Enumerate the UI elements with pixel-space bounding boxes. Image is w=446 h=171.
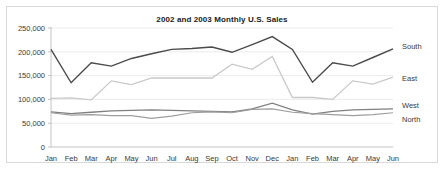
x-axis-tick-label: Jul [167,154,177,163]
x-axis-tick-label: Jun [146,154,158,163]
y-axis-line [51,27,393,147]
x-axis-tick-label: Feb [65,154,78,163]
x-axis-tick-label: Dec [266,154,280,163]
series-label-south: South [402,42,422,51]
x-axis-tick-label: Feb [306,154,319,163]
x-axis-tick-label: Jun [387,154,399,163]
y-axis-tick-label: 50,000 [22,119,45,128]
x-axis-tick-label: Jan [45,154,57,163]
sales-line-chart: 050,000100,000150,000200,000250,000 JanF… [7,7,439,164]
x-axis-tick-label: Oct [226,154,239,163]
series-label-west: West [402,101,420,110]
x-axis-tick-label: May [366,154,380,163]
y-axis-tick-label: 250,000 [18,24,45,33]
x-axis-tick-label: Sep [205,154,218,163]
y-axis-tick-label: 100,000 [18,95,45,104]
y-tick-marks-group [48,28,51,147]
series-line-east [51,57,393,100]
series-labels-group: SouthEastWestNorth [402,42,422,124]
y-axis-tick-label: 150,000 [18,71,45,80]
x-axis-tick-label: May [124,154,138,163]
y-axis-tick-label: 200,000 [18,48,45,57]
x-axis-tick-label: Jan [286,154,298,163]
x-axis-tick-label: Apr [106,154,118,163]
series-lines-group [51,37,393,119]
x-axis-tick-label: Mar [85,154,98,163]
chart-frame: 2002 and 2003 Monthly U.S. Sales 050,000… [6,6,438,163]
y-axis-tick-label: 0 [41,143,45,152]
plot-area: 050,000100,000150,000200,000250,000 JanF… [7,7,439,164]
series-label-north: North [402,115,420,124]
x-axis-tick-label: Mar [326,154,339,163]
x-axis-tick-label: Aug [185,154,198,163]
x-axis-labels-group: JanFebMarAprMayJunJulAugSepOctNovDecJanF… [45,154,399,163]
series-label-east: East [402,74,418,83]
x-axis-tick-label: Nov [246,154,260,163]
y-axis-labels-group: 050,000100,000150,000200,000250,000 [18,24,45,152]
gridlines-group [51,28,393,123]
x-axis-tick-label: Apr [347,154,359,163]
